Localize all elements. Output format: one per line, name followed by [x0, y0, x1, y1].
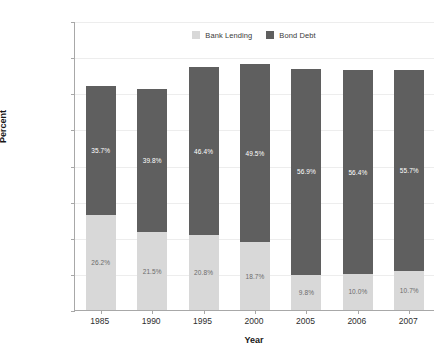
x-tick-mark	[306, 310, 307, 314]
y-tick-mark	[71, 130, 75, 131]
y-tick-mark	[71, 58, 75, 59]
bar-value-label: 9.8%	[299, 289, 314, 296]
bar-stack: 49.5%18.7%	[240, 64, 270, 310]
bar-stack: 56.9%9.8%	[291, 69, 321, 310]
x-tick-label: 1985	[90, 316, 109, 326]
bar-stack: 46.4%20.8%	[189, 67, 219, 310]
y-tick-mark	[71, 239, 75, 240]
x-tick-label: 2006	[347, 316, 366, 326]
bar-segment-bond-debt: 56.4%	[343, 70, 373, 274]
bar-value-label: 56.4%	[348, 169, 367, 176]
bar-segment-bond-debt: 39.8%	[137, 89, 167, 233]
bar-segment-bond-debt: 55.7%	[394, 70, 424, 271]
bar-segment-bond-debt: 35.7%	[86, 86, 116, 215]
x-tick-mark	[409, 310, 410, 314]
x-tick-mark	[101, 310, 102, 314]
x-tick-label: 2007	[399, 316, 418, 326]
bar-stack: 55.7%10.7%	[394, 70, 424, 310]
gridline	[75, 22, 434, 23]
y-tick-mark	[71, 311, 75, 312]
bar-segment-bond-debt: 56.9%	[291, 69, 321, 275]
x-tick-mark	[255, 310, 256, 314]
bar-value-label: 10.7%	[400, 287, 419, 294]
y-tick-mark	[71, 94, 75, 95]
bar-value-label: 10.0%	[348, 288, 367, 295]
y-axis-title: Percent	[0, 110, 8, 143]
x-tick-mark	[358, 310, 359, 314]
x-tick-mark	[152, 310, 153, 314]
bar-segment-bank-lending: 10.0%	[343, 274, 373, 310]
y-tick-mark	[71, 22, 75, 23]
bar-stack: 56.4%10.0%	[343, 70, 373, 310]
bar-segment-bank-lending: 21.5%	[137, 232, 167, 310]
bar-value-label: 35.7%	[91, 147, 110, 154]
bar-stack: 39.8%21.5%	[137, 89, 167, 310]
bar-value-label: 55.7%	[400, 167, 419, 174]
y-tick-mark	[71, 275, 75, 276]
bar-stack: 35.7%26.2%	[86, 86, 116, 310]
bar-segment-bank-lending: 10.7%	[394, 271, 424, 310]
x-tick-label: 2005	[296, 316, 315, 326]
x-tick-label: 1990	[142, 316, 161, 326]
bar-value-label: 20.8%	[194, 269, 213, 276]
bar-value-label: 18.7%	[246, 273, 265, 280]
bar-segment-bank-lending: 9.8%	[291, 275, 321, 310]
y-tick-mark	[71, 167, 75, 168]
x-tick-label: 1995	[193, 316, 212, 326]
x-tick-label: 2000	[245, 316, 264, 326]
gridline	[75, 58, 434, 59]
bar-value-label: 21.5%	[143, 268, 162, 275]
x-tick-mark	[204, 310, 205, 314]
y-tick-mark	[71, 203, 75, 204]
bar-value-label: 49.5%	[246, 150, 265, 157]
bar-segment-bank-lending: 26.2%	[86, 215, 116, 310]
bar-value-label: 39.8%	[143, 157, 162, 164]
plot-area: 0.0%10.0%20.0%30.0%40.0%50.0%60.0%70.0%8…	[74, 22, 434, 311]
bar-segment-bank-lending: 18.7%	[240, 242, 270, 310]
bar-value-label: 46.4%	[194, 148, 213, 155]
x-axis-title: Year	[74, 335, 434, 345]
bar-value-label: 26.2%	[91, 259, 110, 266]
bar-segment-bank-lending: 20.8%	[189, 235, 219, 310]
bar-segment-bond-debt: 49.5%	[240, 64, 270, 243]
stacked-bar-chart: Bank Lending Bond Debt Percent 0.0%10.0%…	[0, 0, 448, 355]
bar-value-label: 56.9%	[297, 168, 316, 175]
bar-segment-bond-debt: 46.4%	[189, 67, 219, 235]
